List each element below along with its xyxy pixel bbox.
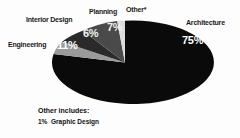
chart-footnote: Other includes: 1%Graphic Design [38,107,99,126]
pie-chart: Interior Design Engineering Planning Oth… [0,0,240,138]
pie-label-architecture: Architecture [186,19,225,26]
footnote-item: 1%Graphic Design [38,118,99,126]
pie-value-interior-design: 6% [83,28,98,39]
pie-value-architecture: 75% [182,35,203,46]
pie-label-planning: Planning [89,8,117,15]
footnote-item-label: Graphic Design [51,118,99,125]
footnote-title: Other includes: [38,107,99,116]
pie-label-other: Other* [126,6,146,13]
pie-label-interior-design: Interior Design [26,16,72,23]
pie-value-planning: 7% [107,22,122,33]
pie-label-engineering: Engineering [8,41,46,48]
pie-value-engineering: 11% [57,40,78,51]
footnote-item-percent: 1% [38,118,51,126]
